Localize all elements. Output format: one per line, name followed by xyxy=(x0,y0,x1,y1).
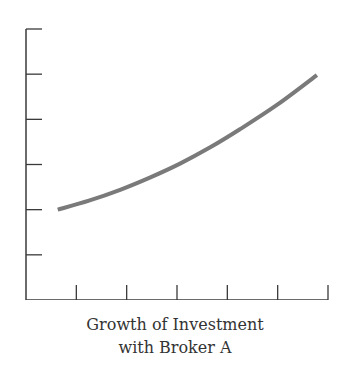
chart-title-line-1: Growth of Investment xyxy=(0,313,350,336)
chart-title-line-2: with Broker A xyxy=(0,336,350,359)
line-chart xyxy=(0,0,350,300)
growth-curve xyxy=(58,75,317,210)
chart-series xyxy=(58,75,317,210)
